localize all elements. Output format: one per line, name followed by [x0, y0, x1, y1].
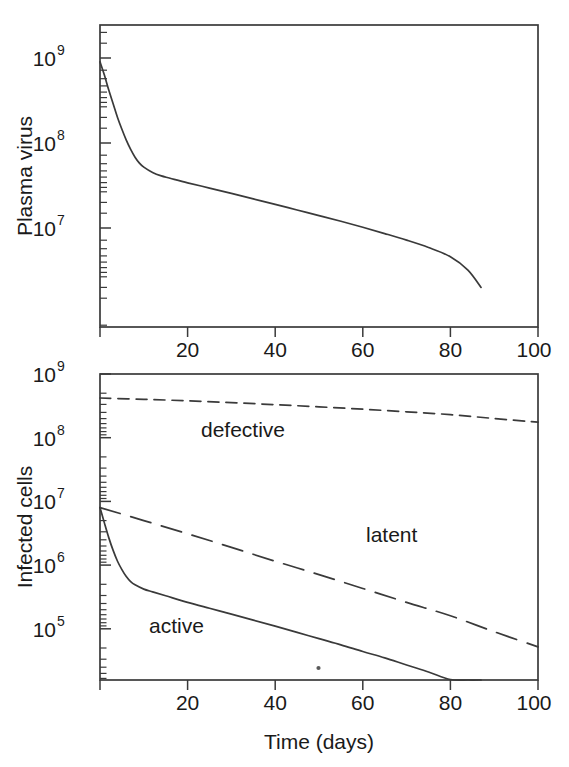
scan-speckle-artifact	[316, 666, 320, 670]
bottom-x-tick-label: 40	[264, 691, 287, 714]
bottom-x-tick-label: 60	[351, 691, 374, 714]
top-x-tick-label: 80	[439, 338, 462, 361]
top-y-tick-exponent: 7	[57, 212, 65, 228]
top-x-tick-label: 60	[351, 338, 374, 361]
bottom-y-tick-exponent: 7	[57, 485, 65, 501]
plasma-virus-panel: 10 9 10 8 10 7 Plasma virus 20 40 60 80 …	[13, 25, 552, 361]
active-curve	[100, 508, 481, 681]
bottom-x-axis-title: Time (days)	[264, 730, 374, 753]
top-y-tick-exponent: 8	[57, 127, 65, 143]
bottom-y-tick-label: 10	[33, 427, 56, 450]
top-y-axis-title: Plasma virus	[13, 116, 36, 236]
bottom-x-ticks	[100, 680, 538, 690]
top-y-tick-label: 10	[33, 47, 56, 70]
top-plot-frame	[100, 25, 538, 327]
top-y-minor-ticks	[100, 32, 107, 325]
top-y-tick-labels: 10 9 10 8 10 7	[33, 42, 65, 240]
top-x-ticks	[100, 327, 538, 337]
bottom-y-tick-exponent: 6	[57, 549, 65, 565]
bottom-x-tick-label: 100	[516, 691, 551, 714]
bottom-y-tick-label: 10	[33, 490, 56, 513]
top-y-tick-label: 10	[33, 217, 56, 240]
bottom-y-tick-exponent: 9	[57, 358, 65, 374]
top-x-tick-label: 40	[264, 338, 287, 361]
bottom-x-tick-labels: 20 40 60 80 100	[176, 691, 552, 714]
active-curve-label: active	[149, 614, 204, 637]
bottom-y-tick-labels: 10 9 10 8 10 7 10 6 10 5	[33, 358, 65, 641]
bottom-y-axis-title: Infected cells	[13, 466, 36, 589]
bottom-y-tick-label: 10	[33, 618, 56, 641]
bottom-y-tick-label: 10	[33, 554, 56, 577]
defective-curve	[100, 398, 538, 422]
top-y-tick-exponent: 9	[57, 42, 65, 58]
bottom-y-tick-exponent: 5	[57, 613, 65, 629]
plasma-virus-curve	[100, 62, 481, 288]
top-y-tick-label: 10	[33, 132, 56, 155]
latent-curve-label: latent	[366, 523, 418, 546]
top-x-tick-label: 100	[516, 338, 551, 361]
defective-curve-label: defective	[201, 418, 285, 441]
figure-container: 10 9 10 8 10 7 Plasma virus 20 40 60 80 …	[0, 0, 569, 767]
bottom-y-minor-ticks	[100, 393, 107, 678]
top-x-tick-labels: 20 40 60 80 100	[176, 338, 552, 361]
bottom-y-tick-label: 10	[33, 363, 56, 386]
bottom-y-tick-exponent: 8	[57, 422, 65, 438]
infected-cells-panel: 10 9 10 8 10 7 10 6 10 5 Infected cells …	[13, 358, 552, 753]
bottom-x-tick-label: 20	[176, 691, 199, 714]
bottom-x-tick-label: 80	[439, 691, 462, 714]
top-x-tick-label: 20	[176, 338, 199, 361]
